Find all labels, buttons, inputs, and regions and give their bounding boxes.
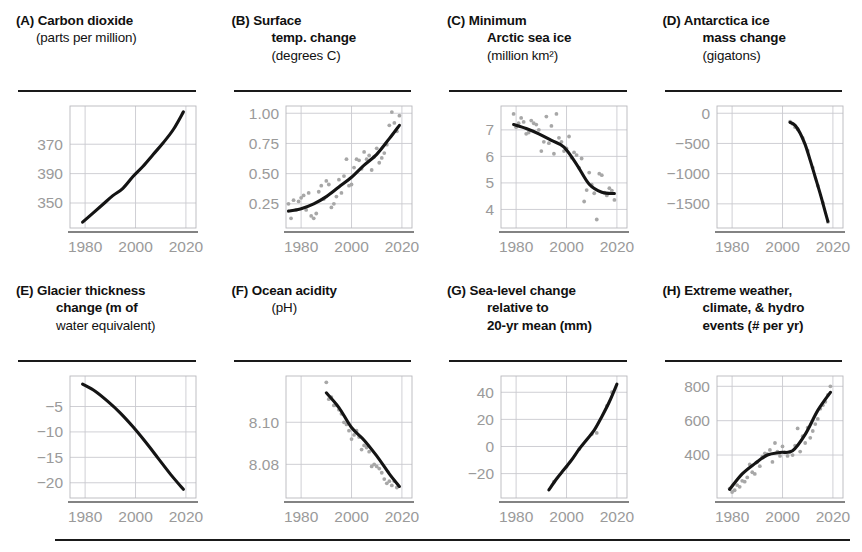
- data-point: [389, 483, 393, 487]
- y-tick-label: −1000: [666, 165, 710, 182]
- data-point: [379, 156, 383, 160]
- panel-f-title: (F) Ocean acidity (pH): [232, 282, 424, 336]
- panel-c-title: (C) Minimum Arctic sea ice (million km²): [447, 12, 639, 66]
- data-point: [291, 198, 295, 202]
- data-point: [301, 193, 305, 197]
- data-point: [392, 121, 396, 125]
- data-point: [519, 116, 523, 120]
- x-tick-label: 2020: [815, 508, 850, 525]
- panel-b-title: (B) Surface temp. change (degrees C): [232, 12, 424, 66]
- data-point: [362, 150, 366, 154]
- data-point: [798, 450, 802, 454]
- data-point: [367, 154, 371, 158]
- data-point: [803, 441, 807, 445]
- panel-b-title-line-3: (degrees C): [252, 48, 341, 63]
- y-tick-label: 800: [684, 378, 710, 395]
- data-point: [742, 480, 746, 484]
- data-point: [575, 153, 579, 157]
- data-point: [331, 202, 335, 206]
- data-point: [810, 429, 814, 433]
- trend-line: [729, 392, 830, 489]
- panel-c-svg: 4567198020002020: [431, 96, 647, 256]
- x-tick-label: 2020: [169, 508, 204, 525]
- panel-e-title-line-2: change (m of: [36, 300, 138, 315]
- y-tick-label: −5: [45, 398, 63, 415]
- x-tick-label: 2000: [765, 508, 800, 525]
- data-point: [357, 158, 361, 162]
- x-tick-label: 2020: [600, 238, 635, 255]
- panel-c-plot: 4567198020002020: [431, 96, 647, 256]
- data-point: [778, 454, 782, 458]
- climate-indicators-figure: (A) Carbon dioxide (parts per million) 3…: [0, 0, 862, 552]
- x-tick-label: 1980: [283, 238, 318, 255]
- data-point: [537, 128, 541, 132]
- panel-c-title-line-3: (million km²): [467, 48, 558, 63]
- x-tick-label: 1980: [714, 238, 749, 255]
- data-point: [539, 149, 543, 153]
- panel-h-title-line-2: climate, & hydro: [683, 300, 805, 315]
- data-point: [595, 218, 599, 222]
- panel-h-rule: [665, 360, 843, 362]
- data-point: [319, 184, 323, 188]
- panel-d-plot: 0−500−1000−1500198020002020: [647, 96, 862, 256]
- panel-c-rule: [449, 90, 627, 92]
- data-point: [737, 485, 741, 489]
- x-tick-label: 2000: [765, 238, 800, 255]
- data-point: [770, 460, 774, 464]
- data-point: [289, 216, 293, 220]
- data-point: [387, 479, 391, 483]
- panel-d-title: (D) Antarctica ice mass change (gigatons…: [663, 12, 855, 66]
- data-point: [306, 191, 310, 195]
- data-point: [785, 454, 789, 458]
- data-point: [534, 123, 538, 127]
- panel-d-title-line-3: (gigatons): [683, 48, 761, 63]
- panel-b-title-line-2: temp. change: [252, 30, 357, 45]
- y-tick-label: −20: [37, 474, 64, 491]
- y-tick-label: 1.00: [248, 105, 279, 122]
- data-point: [387, 123, 391, 127]
- data-point: [377, 161, 381, 165]
- data-point: [324, 179, 328, 183]
- data-point: [815, 417, 819, 421]
- data-point: [326, 183, 330, 187]
- data-point: [286, 202, 290, 206]
- panel-h-title: (H) Extreme weather, climate, & hydro ev…: [663, 282, 855, 336]
- data-point: [808, 436, 812, 440]
- data-point: [339, 191, 343, 195]
- panel-c-title-line-1: (C) Minimum: [447, 13, 526, 28]
- data-point: [768, 448, 772, 452]
- panel-f: (F) Ocean acidity (pH) 8.088.10198020002…: [216, 270, 432, 540]
- data-point: [337, 178, 341, 182]
- panel-b: (B) Surface temp. change (degrees C) 0.2…: [216, 0, 432, 270]
- x-tick-label: 2000: [549, 508, 584, 525]
- x-tick-label: 1980: [68, 238, 103, 255]
- panel-f-title-line-2: (pH): [252, 300, 297, 315]
- y-tick-label: 370: [37, 136, 63, 153]
- panel-c: (C) Minimum Arctic sea ice (million km²)…: [431, 0, 647, 270]
- panel-a-rule: [18, 90, 196, 92]
- panel-h-title-line-1: (H) Extreme weather,: [663, 283, 792, 298]
- trend-line: [288, 125, 399, 211]
- y-tick-label: 0: [701, 105, 710, 122]
- panel-g-svg: −2002040198020002020: [431, 366, 647, 526]
- panel-g-title-line-3: 20-yr mean (mm): [467, 318, 592, 333]
- trend-line: [83, 112, 184, 222]
- data-point: [544, 115, 548, 119]
- panel-g-title: (G) Sea-level change relative to 20-yr m…: [447, 282, 639, 336]
- data-point: [567, 135, 571, 139]
- panel-e: (E) Glacier thickness change (m of water…: [0, 270, 216, 540]
- data-point: [752, 472, 756, 476]
- data-point: [795, 427, 799, 431]
- y-tick-label: 0.25: [248, 195, 278, 212]
- data-point: [316, 190, 320, 194]
- x-tick-label: 1980: [499, 508, 534, 525]
- panel-g-title-line-2: relative to: [467, 300, 549, 315]
- data-point: [580, 157, 584, 161]
- y-tick-label: 4: [485, 201, 494, 218]
- y-tick-label: 8.08: [248, 456, 278, 473]
- x-tick-label: 2020: [169, 238, 204, 255]
- panel-e-rule: [18, 360, 196, 362]
- y-tick-label: 400: [684, 446, 710, 463]
- data-point: [349, 183, 353, 187]
- panel-e-title-line-1: (E) Glacier thickness: [16, 283, 145, 298]
